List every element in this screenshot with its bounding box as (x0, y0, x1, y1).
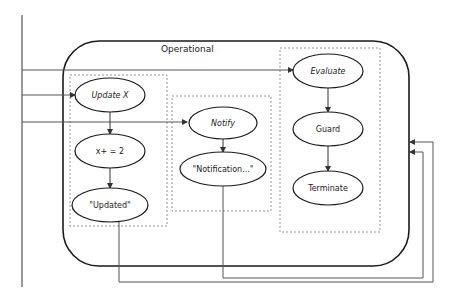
edge-updated-feedback (119, 142, 433, 282)
state-diagram: Operational Update X x+ = 2 "Updated" No… (0, 0, 452, 299)
node-guard[interactable]: Guard (293, 112, 363, 146)
svg-text:Notify: Notify (211, 119, 235, 128)
node-evaluate[interactable]: Evaluate (293, 54, 363, 88)
svg-text:Guard: Guard (316, 125, 340, 134)
node-updated[interactable]: "Updated" (72, 188, 148, 222)
node-notification[interactable]: "Notification..." (180, 152, 266, 186)
svg-text:"Updated": "Updated" (89, 201, 130, 210)
node-terminate[interactable]: Terminate (293, 171, 363, 205)
diagram-svg: Operational Update X x+ = 2 "Updated" No… (0, 0, 452, 299)
svg-text:Update X: Update X (92, 91, 130, 100)
svg-text:"Notification...": "Notification..." (193, 165, 254, 174)
svg-text:Terminate: Terminate (307, 184, 348, 193)
node-update-x[interactable]: Update X (75, 78, 145, 112)
svg-text:Evaluate: Evaluate (311, 67, 346, 76)
svg-text:x+ = 2: x+ = 2 (96, 147, 124, 156)
node-x-plus[interactable]: x+ = 2 (75, 134, 145, 168)
node-notify[interactable]: Notify (189, 107, 257, 139)
container-label: Operational (161, 44, 214, 54)
